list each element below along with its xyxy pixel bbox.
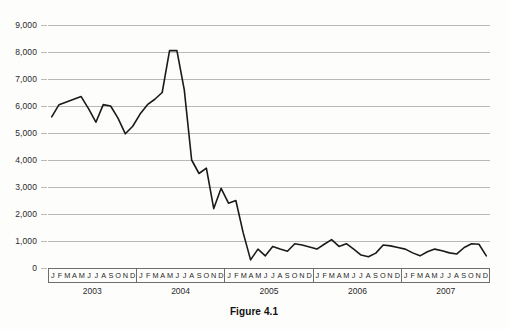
x-axis-month-label: J [174,269,181,282]
x-axis-month-label: M [166,269,173,282]
x-axis-month-label: D [394,269,401,282]
y-axis-tick-mark [41,133,47,134]
x-axis-year-label: 2006 [313,286,401,300]
x-axis-month-label: A [453,269,460,282]
x-axis-month-label: O [467,269,474,282]
y-axis-labels: 01,0002,0003,0004,0005,0006,0007,0008,00… [0,0,48,300]
x-axis-month-label: A [424,269,431,282]
year-month-group: JFMAMJJASOND [224,269,312,282]
x-axis-month-label: O [291,269,298,282]
x-axis-month-label: M [64,269,71,282]
x-axis-month-label: F [56,269,63,282]
x-axis-month-label: J [225,269,232,282]
line-chart: 01,0002,0003,0004,0005,0006,0007,0008,00… [0,0,508,300]
y-axis-tick-mark [41,268,47,269]
figure-4-1: 01,0002,0003,0004,0005,0006,0007,0008,00… [0,0,508,329]
figure-page: 01,0002,0003,0004,0005,0006,0007,0008,00… [0,0,508,329]
x-axis-month-label: J [137,269,144,282]
x-axis-month-label: J [93,269,100,282]
x-axis-month-label: A [276,269,283,282]
x-axis-month-label: J [269,269,276,282]
y-axis-tick-label: 4,000 [15,155,37,165]
x-axis-month-label: N [474,269,481,282]
year-month-group: JFMAMJJASOND [401,269,490,282]
x-axis-month-label: J [350,269,357,282]
x-axis-year-label: 2004 [136,286,224,300]
y-axis-tick-label: 2,000 [15,209,37,219]
y-axis-tick-label: 9,000 [15,20,37,30]
y-axis-tick-label: 5,000 [15,128,37,138]
x-axis-month-label: A [335,269,342,282]
x-axis-month-label: F [144,269,151,282]
x-axis-month-label: J [402,269,409,282]
plot-area [48,0,490,300]
y-axis-tick-mark [41,160,47,161]
x-axis-month-label: J [85,269,92,282]
y-axis-tick-label: 7,000 [15,74,37,84]
y-axis-tick-mark [41,25,47,26]
x-axis-month-label: S [195,269,202,282]
x-axis-month-label: M [240,269,247,282]
year-month-group: JFMAMJJASOND [313,269,401,282]
x-axis-month-label: J [438,269,445,282]
x-axis-month-label: D [305,269,312,282]
x-axis-month-label: J [445,269,452,282]
x-axis-month-label: D [482,269,489,282]
x-axis-month-label: N [122,269,129,282]
x-axis-month-label: M [254,269,261,282]
x-axis-month-label: F [233,269,240,282]
x-axis-month-label: M [78,269,85,282]
x-axis-month-label: J [49,269,56,282]
x-axis-month-label: J [262,269,269,282]
year-month-group: JFMAMJJASOND [136,269,224,282]
year-month-group: JFMAMJJASOND [48,269,136,282]
x-axis-year-label: 2005 [225,286,313,300]
y-axis-tick-mark [41,241,47,242]
y-axis-tick-label: 1,000 [15,236,37,246]
x-axis-month-label: N [298,269,305,282]
x-axis-month-label: A [247,269,254,282]
x-axis-month-label: D [217,269,224,282]
x-axis-month-label: J [314,269,321,282]
x-axis-month-label: N [210,269,217,282]
x-axis-month-boxes: JFMAMJJASONDJFMAMJJASONDJFMAMJJASONDJFMA… [48,268,490,283]
y-axis-tick-mark [41,52,47,53]
y-axis-tick-mark [41,79,47,80]
x-axis-month-label: M [431,269,438,282]
y-axis-tick-mark [41,106,47,107]
x-axis-month-label: O [114,269,121,282]
x-axis-month-label: F [409,269,416,282]
y-axis-tick-mark [41,187,47,188]
x-axis-year-label: 2007 [402,286,490,300]
x-axis-month-label: A [188,269,195,282]
x-axis-month-label: S [107,269,114,282]
x-axis-month-label: S [284,269,291,282]
x-axis-month-label: S [460,269,467,282]
x-axis-month-label: A [159,269,166,282]
y-axis-tick-label: 8,000 [15,47,37,57]
y-axis-tick-label: 6,000 [15,101,37,111]
x-axis-month-label: M [328,269,335,282]
x-axis-year-label: 2003 [48,286,136,300]
y-axis-tick-label: 0 [32,263,37,273]
x-axis-month-label: O [379,269,386,282]
y-axis-tick-label: 3,000 [15,182,37,192]
y-axis-tick-mark [41,214,47,215]
x-axis-month-label: J [357,269,364,282]
x-axis-month-label: M [416,269,423,282]
x-axis-month-label: D [129,269,136,282]
x-axis-month-label: M [152,269,159,282]
x-axis-month-label: S [372,269,379,282]
data-series-line [48,0,490,300]
x-axis-month-label: A [100,269,107,282]
x-axis-month-label: O [203,269,210,282]
figure-caption: Figure 4.1 [0,306,508,317]
x-axis-month-label: A [71,269,78,282]
x-axis-month-label: M [343,269,350,282]
x-axis-month-label: F [321,269,328,282]
x-axis-month-label: N [386,269,393,282]
x-axis-year-labels: 20032004200520062007 [48,286,490,300]
x-axis-month-label: J [181,269,188,282]
x-axis-month-label: A [364,269,371,282]
